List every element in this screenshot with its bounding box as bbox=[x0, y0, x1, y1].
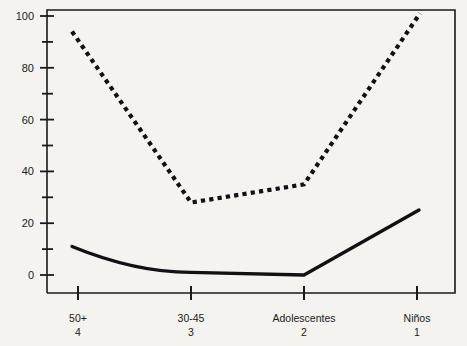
y-tick-label-100: 100 bbox=[4, 10, 34, 22]
x-category-number: 4 bbox=[69, 325, 87, 339]
x-category-number: 3 bbox=[178, 325, 205, 339]
y-tick-label-0: 0 bbox=[4, 269, 34, 281]
x-tick-label-group-2: 30-45 3 bbox=[178, 311, 205, 339]
x-category-label: 30-45 bbox=[178, 311, 205, 325]
x-tick-label-group-4: Niños 1 bbox=[404, 311, 431, 339]
series-solid-line bbox=[72, 210, 419, 275]
y-tick-label-20: 20 bbox=[4, 217, 34, 229]
x-category-label: 50+ bbox=[69, 311, 87, 325]
chart-plot-area bbox=[0, 0, 467, 346]
series-dotted-line bbox=[72, 13, 420, 202]
y-tick-label-80: 80 bbox=[4, 62, 34, 74]
x-category-number: 1 bbox=[404, 325, 431, 339]
x-tick-label-group-1: 50+ 4 bbox=[69, 311, 87, 339]
y-tick-label-40: 40 bbox=[4, 165, 34, 177]
x-category-number: 2 bbox=[272, 325, 335, 339]
x-tick-label-group-3: Adolescentes 2 bbox=[272, 311, 335, 339]
x-category-label: Adolescentes bbox=[272, 311, 335, 325]
y-tick-label-60: 60 bbox=[4, 114, 34, 126]
chart-figure: 100 80 60 40 20 0 50+ 4 30-45 3 Adolesce… bbox=[0, 0, 467, 346]
x-category-label: Niños bbox=[404, 311, 431, 325]
